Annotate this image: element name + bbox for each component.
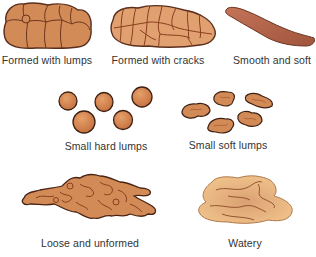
label-loose-and-unformed: Loose and unformed — [41, 237, 139, 249]
formed-with-lumps-image — [4, 3, 91, 48]
watery-image — [199, 176, 293, 223]
formed-with-cracks-image — [111, 6, 215, 47]
label-small-hard-lumps: Small hard lumps — [65, 140, 148, 152]
small-hard-lumps-image — [59, 87, 152, 133]
label-small-soft-lumps: Small soft lumps — [189, 139, 268, 151]
label-formed-with-lumps: Formed with lumps — [2, 54, 92, 66]
label-smooth-and-soft: Smooth and soft — [233, 54, 311, 66]
label-watery: Watery — [228, 237, 261, 249]
stool-types-illustration — [0, 0, 316, 257]
small-soft-lumps-image — [182, 92, 272, 133]
smooth-and-soft-image — [226, 7, 315, 46]
loose-and-unformed-image — [22, 175, 155, 219]
label-formed-with-cracks: Formed with cracks — [112, 54, 205, 66]
